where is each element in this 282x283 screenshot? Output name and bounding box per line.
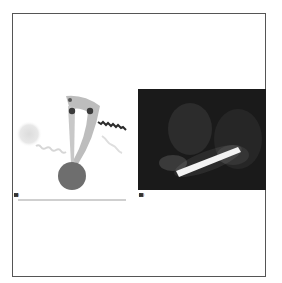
- marker-1: [69, 108, 75, 114]
- figure-caption: Caption text (illegible at this resoluti…: [18, 199, 126, 201]
- panel-b-label: (b): [139, 193, 143, 197]
- light-source-icon: [16, 121, 42, 147]
- light-ray: [36, 145, 66, 153]
- panel-a-label: (a): [14, 193, 18, 197]
- straight-arm: [68, 106, 75, 164]
- panel-b-photo: [138, 89, 266, 190]
- diagram-illustration: [14, 90, 130, 190]
- photo-light-stick: [138, 89, 266, 190]
- dark-sphere: [58, 162, 86, 190]
- panel-a-diagram: [14, 90, 130, 190]
- zigzag-wave: [98, 122, 126, 130]
- marker-2: [87, 108, 93, 114]
